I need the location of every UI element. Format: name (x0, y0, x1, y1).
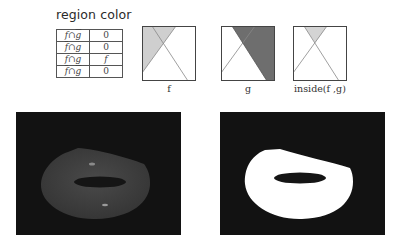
table-row: f∩g f (57, 54, 123, 66)
shaded-torus-render (16, 112, 181, 235)
panel-inside-diagram (293, 26, 347, 81)
region-color-table: f∩g 0 f∩g 0 f∩g f f∩g 0 (56, 29, 123, 78)
color-cell: 0 (90, 30, 123, 42)
region-color-title: region color (56, 7, 132, 22)
region-cell: f∩g (57, 66, 90, 78)
region-cell: f∩g (57, 30, 90, 42)
color-cell: f (90, 54, 123, 66)
region-cell: f∩g (57, 42, 90, 54)
region-cell: f∩g (57, 54, 90, 66)
mask-torus-render (220, 112, 385, 235)
panel-inside-label: inside(f ,g) (285, 83, 355, 94)
color-cell: 0 (90, 66, 123, 78)
panel-g-label: g (213, 83, 283, 94)
panel-g-diagram (221, 26, 275, 81)
table-row: f∩g 0 (57, 42, 123, 54)
table-row: f∩g 0 (57, 30, 123, 42)
table-row: f∩g 0 (57, 66, 123, 78)
color-cell: 0 (90, 42, 123, 54)
panel-f-diagram (142, 26, 196, 81)
panel-f-label: f (134, 83, 204, 94)
